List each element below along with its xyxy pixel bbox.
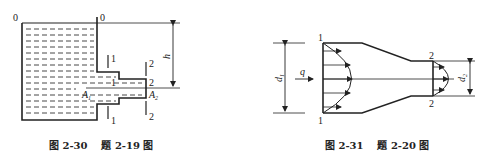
water-hatching xyxy=(26,29,142,113)
section-2-label-bottom: 2 xyxy=(149,111,154,122)
velocity-arrows-1 xyxy=(323,51,352,107)
section-1-label-top: 1 xyxy=(111,53,116,64)
velocity-profile-2 xyxy=(433,61,449,96)
d2-label: d2 xyxy=(456,74,468,82)
converging-pipe-diagram: q d1 d2 1 1 2 2 图 2-31 题 2-20 图 xyxy=(273,32,475,151)
height-label: h xyxy=(161,54,172,59)
d1-label: d1 xyxy=(273,74,285,82)
pipe-wall-top xyxy=(323,43,433,61)
section-1-label-bottom: 1 xyxy=(318,115,323,126)
velocity-profile-1 xyxy=(323,43,352,113)
datum-label-right: 0 xyxy=(100,12,105,23)
tank-outline xyxy=(22,17,146,120)
section-2-label-bottom: 2 xyxy=(429,98,434,109)
figure-caption-right: 图 2-31 题 2-20 图 xyxy=(325,140,429,151)
section-1-label-mid: 1 xyxy=(111,77,116,88)
area-1-label: A1 xyxy=(81,89,91,101)
section-2-label-top: 2 xyxy=(429,50,434,61)
figure-caption-left: 图 2-30 题 2-19 图 xyxy=(49,140,153,151)
datum-label-left: 0 xyxy=(13,12,18,23)
section-2-label-top: 2 xyxy=(149,58,154,69)
pipe-wall-bottom xyxy=(323,96,433,113)
area-2-label: A2 xyxy=(148,89,158,101)
section-1-label-bottom: 1 xyxy=(111,115,116,126)
tank-nozzle-diagram: 0 0 h 1 1 1 2 2 2 A1 A2 图 2-30 题 2-19 图 xyxy=(13,12,180,151)
section-2-label-mid: 2 xyxy=(149,77,154,88)
flow-label: q xyxy=(300,66,305,77)
section-1-label-top: 1 xyxy=(318,32,323,43)
